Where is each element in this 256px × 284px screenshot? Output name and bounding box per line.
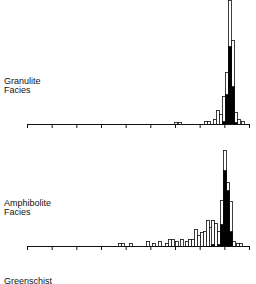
open-bar <box>192 240 195 247</box>
open-bar <box>201 233 204 247</box>
open-bar <box>207 221 210 247</box>
open-bar <box>204 232 207 247</box>
open-bar <box>214 120 217 125</box>
filled-bar <box>227 191 230 247</box>
open-bar <box>238 120 241 125</box>
open-bar <box>147 242 150 247</box>
histogram-canvas <box>0 0 256 284</box>
open-bar <box>172 240 175 247</box>
open-bar <box>159 242 162 247</box>
open-bar <box>233 242 236 247</box>
filled-bar <box>221 225 224 247</box>
open-bar <box>223 97 226 125</box>
filled-bar <box>229 47 232 125</box>
open-bar <box>186 242 189 247</box>
open-bar <box>215 224 218 247</box>
open-bar <box>220 115 223 125</box>
open-bar <box>217 111 220 125</box>
open-bar <box>195 230 198 247</box>
filled-bar <box>224 171 227 247</box>
open-bar <box>169 240 172 247</box>
amphibolite-histogram <box>27 151 250 251</box>
filled-bar <box>226 95 229 125</box>
open-bar <box>181 240 184 247</box>
filled-bar <box>230 232 233 247</box>
open-bar <box>189 240 192 247</box>
open-bar <box>198 236 201 247</box>
filled-bar <box>232 87 235 125</box>
open-bar <box>212 221 215 247</box>
granulite-histogram <box>27 1 250 129</box>
open-bar <box>176 242 179 247</box>
